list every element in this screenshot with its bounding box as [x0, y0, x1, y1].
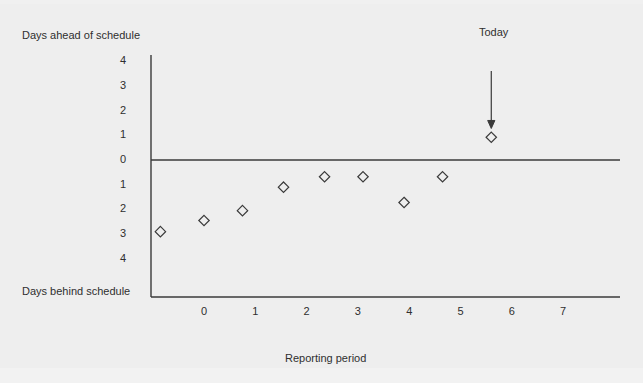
data-point-marker-8 — [486, 132, 496, 142]
data-point-marker-0 — [155, 226, 165, 236]
axes-lines — [151, 55, 620, 297]
data-point-marker-1 — [199, 215, 209, 225]
plot-area — [0, 0, 643, 383]
data-point-marker-3 — [278, 182, 288, 192]
data-point-marker-2 — [237, 205, 247, 215]
chart-figure: Days ahead of schedule Days behind sched… — [0, 0, 643, 383]
data-markers — [155, 132, 496, 237]
data-point-marker-4 — [319, 172, 329, 182]
data-point-marker-6 — [399, 197, 409, 207]
arrow-head — [488, 120, 495, 128]
data-point-marker-7 — [437, 172, 447, 182]
data-point-marker-5 — [358, 172, 368, 182]
today-arrow-icon — [488, 71, 495, 128]
